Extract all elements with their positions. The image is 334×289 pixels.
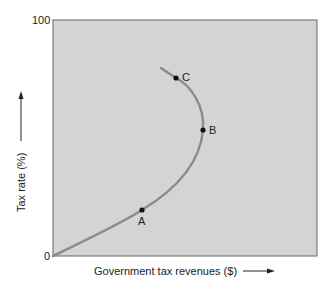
x-axis-label: Government tax revenues ($): [94, 265, 237, 277]
point-c-label: C: [182, 71, 190, 83]
y-axis-arrow-icon: [19, 91, 24, 141]
plot-area: [53, 20, 317, 256]
y-tick-100: 100: [32, 14, 50, 26]
origin-label: 0: [44, 250, 50, 262]
point-a-label: A: [138, 215, 146, 227]
point-b-marker: [200, 127, 205, 132]
point-a-marker: [139, 207, 144, 212]
point-c-marker: [173, 75, 178, 80]
x-axis-arrow-icon: [243, 269, 275, 274]
point-b-label: B: [209, 124, 216, 136]
y-axis-label: Tax rate (%): [15, 153, 27, 212]
laffer-curve-chart: A B C 100 0 Government tax revenues ($) …: [0, 0, 334, 289]
